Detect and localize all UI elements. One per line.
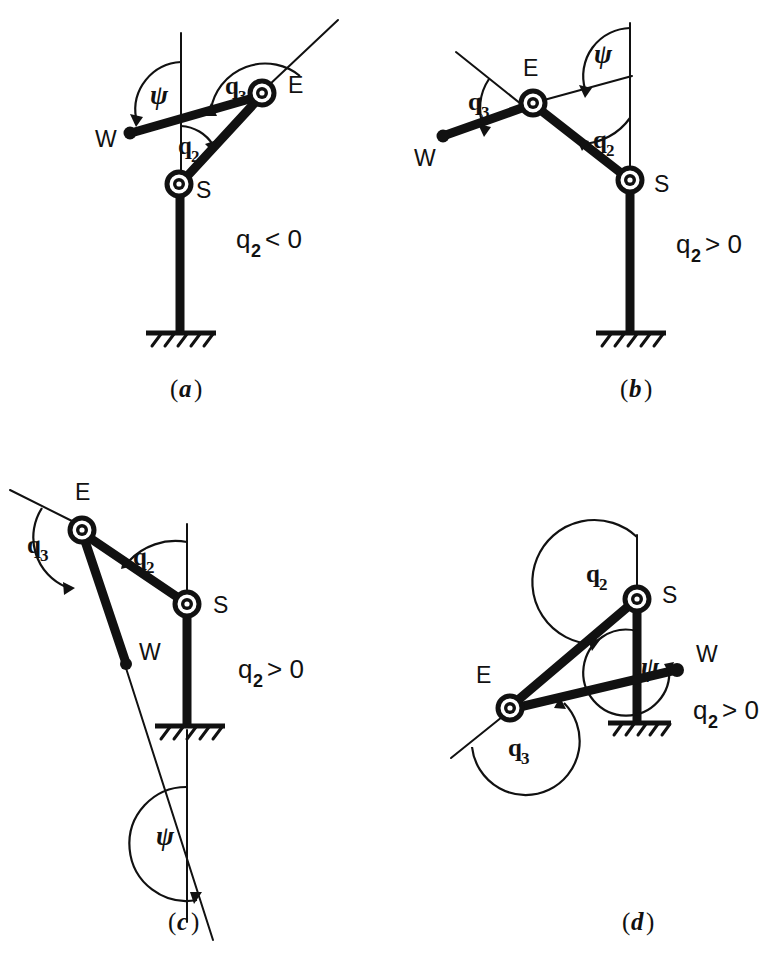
- label-W-b: W: [414, 145, 436, 171]
- label-q2-sub-c: 2: [146, 558, 155, 577]
- condition-q-b: q: [676, 229, 690, 259]
- panel-b: E S W q 3 q 2 ψ q 2 > 0 ( b ): [386, 0, 773, 420]
- panel-d: S E W q 2 q 3 ψ q 2 > 0 ( d ): [386, 440, 773, 962]
- label-q2-sub-d: 2: [599, 575, 608, 594]
- panel-a: E S W q 3 q 2 ψ q 2 < 0 ( a ): [0, 0, 386, 420]
- caption-c-open: (: [168, 908, 176, 936]
- figure-root: E S W q 3 q 2 ψ q 2 < 0 ( a ): [0, 0, 773, 962]
- label-q3-sub-b: 3: [481, 103, 490, 122]
- angle-arc-q2-d: [532, 520, 637, 644]
- condition-sub-c: 2: [253, 671, 263, 691]
- label-q2-base-b: q: [593, 126, 607, 153]
- caption-c-close: ): [191, 908, 199, 936]
- label-q3-sub-a: 3: [238, 87, 247, 106]
- label-E-b: E: [523, 55, 538, 81]
- label-q3-d: q 3: [508, 734, 530, 768]
- caption-b-close: ): [644, 375, 652, 403]
- ground-symbol-b: [596, 333, 666, 346]
- label-q3-b: q 3: [468, 88, 490, 122]
- ground-symbol-c: [155, 726, 225, 739]
- angle-arrow-q3-b: [478, 124, 491, 137]
- caption-d-open: (: [622, 908, 630, 936]
- condition-sub-a: 2: [251, 241, 261, 261]
- label-E-c: E: [75, 479, 90, 505]
- label-W-a: W: [95, 126, 117, 152]
- label-q2-sub-a: 2: [191, 147, 200, 166]
- condition-rel-a: < 0: [265, 224, 302, 254]
- caption-a: ( a ): [170, 375, 202, 403]
- angle-arrow-psi-a: [130, 114, 143, 127]
- caption-c-letter: c: [177, 908, 188, 935]
- wrist-point-d: [670, 663, 684, 677]
- angle-arrow-q3-c: [63, 582, 75, 595]
- label-S-d: S: [662, 582, 677, 608]
- wrist-point-a: [124, 127, 137, 140]
- caption-b-open: (: [620, 375, 628, 403]
- joint-shoulder-c: [175, 592, 199, 616]
- condition-q-c: q: [238, 654, 252, 684]
- label-W-c: W: [139, 639, 161, 665]
- joint-elbow-c: [70, 518, 94, 542]
- condition-sub-b: 2: [691, 246, 701, 266]
- elbow-extension-line-c: [10, 490, 74, 522]
- label-psi-a: ψ: [150, 80, 169, 110]
- condition-sub-d: 2: [708, 712, 718, 732]
- condition-q-d: q: [693, 695, 707, 725]
- label-q3-base-d: q: [508, 734, 522, 761]
- condition-label-a: q 2 < 0: [236, 224, 302, 261]
- caption-b-letter: b: [629, 375, 642, 402]
- label-S-c: S: [213, 592, 228, 618]
- condition-label-b: q 2 > 0: [676, 229, 742, 266]
- label-E-d: E: [476, 662, 491, 688]
- joint-elbow-a: [250, 81, 274, 105]
- elbow-extension-line-d: [451, 717, 502, 758]
- joint-shoulder-a: [167, 172, 191, 196]
- label-S-a: S: [196, 177, 211, 203]
- label-psi-c: ψ: [156, 821, 175, 851]
- condition-label-d: q 2 > 0: [693, 695, 759, 732]
- panel-c: E S W q 3 q 2 ψ q 2 > 0 ( c ): [0, 440, 386, 962]
- condition-q-a: q: [236, 224, 250, 254]
- joint-elbow-d: [498, 696, 522, 720]
- condition-label-c: q 2 > 0: [238, 654, 304, 691]
- caption-a-letter: a: [179, 375, 192, 402]
- condition-rel-b: > 0: [705, 229, 742, 259]
- label-q3-base-c: q: [27, 531, 41, 558]
- caption-d-close: ): [646, 908, 654, 936]
- caption-d-letter: d: [631, 908, 644, 935]
- label-q3-sub-c: 3: [40, 546, 49, 565]
- wrist-point-b: [437, 130, 450, 143]
- condition-rel-d: > 0: [722, 695, 759, 725]
- label-psi-d: ψ: [641, 652, 660, 682]
- joint-elbow-b: [521, 91, 545, 115]
- caption-b: ( b ): [620, 375, 652, 403]
- ground-symbol-a: [146, 333, 216, 346]
- label-q2-d: q 2: [586, 560, 608, 594]
- label-q2-base-d: q: [586, 560, 600, 587]
- label-q2-base-c: q: [133, 543, 147, 570]
- joint-shoulder-d: [625, 587, 649, 611]
- caption-d: ( d ): [622, 908, 654, 936]
- wrist-point-c: [120, 658, 132, 670]
- label-q3-base-b: q: [468, 88, 482, 115]
- caption-a-close: ): [194, 375, 202, 403]
- label-psi-b: ψ: [594, 39, 613, 69]
- joint-shoulder-b: [618, 168, 642, 192]
- label-q3-base-a: q: [225, 72, 239, 99]
- elbow-extension-line-b: [456, 52, 526, 108]
- label-q2-sub-b: 2: [606, 141, 615, 160]
- label-q2-base-a: q: [178, 132, 192, 159]
- condition-rel-c: > 0: [267, 654, 304, 684]
- label-q3-sub-d: 3: [521, 749, 530, 768]
- label-S-b: S: [654, 171, 669, 197]
- caption-c: ( c ): [168, 908, 199, 936]
- ground-symbol-d: [608, 723, 671, 735]
- caption-a-open: (: [170, 375, 178, 403]
- label-W-d: W: [696, 641, 718, 667]
- label-E-a: E: [288, 72, 303, 98]
